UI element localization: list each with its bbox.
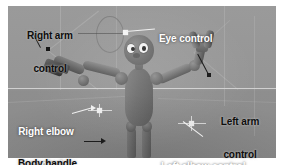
- label-right-arm-control-line2: control: [14, 63, 86, 74]
- body-handle-arrowhead: [101, 138, 106, 144]
- label-right-arm-control: Right arm control: [14, 8, 86, 96]
- label-left-arm-control-line1: Left arm: [208, 116, 272, 127]
- label-left-elbow-control: Left elbow control: [161, 139, 245, 165]
- right-pupil: [142, 46, 146, 51]
- right-elbow-control-arrowhead: [91, 105, 96, 111]
- torso[interactable]: [125, 68, 153, 126]
- nose: [133, 53, 140, 58]
- label-left-elbow-control-line1: Left elbow control: [161, 161, 245, 165]
- right-leg[interactable]: [142, 128, 151, 158]
- label-eye-control-line1: Eye control: [159, 33, 212, 44]
- label-body-handle-line1: Body handle: [18, 158, 77, 165]
- right-elbow-control-handle[interactable]: [97, 108, 102, 113]
- label-eye-control: Eye control: [159, 11, 212, 66]
- left-leg[interactable]: [127, 128, 136, 158]
- label-right-arm-control-line1: Right arm: [14, 30, 86, 41]
- left-pupil: [131, 47, 135, 51]
- body-handle-leader: [84, 141, 102, 142]
- right-shoulder-joint[interactable]: [115, 72, 128, 85]
- label-body-handle: Body handle: [18, 136, 77, 165]
- left-shoulder-joint[interactable]: [150, 72, 163, 85]
- screenshot-root: Right arm control Eye control Left arm c…: [0, 0, 282, 165]
